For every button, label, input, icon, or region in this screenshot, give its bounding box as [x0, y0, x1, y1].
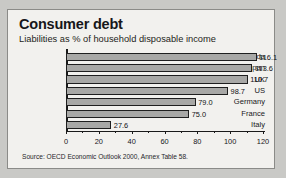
bar-row: 75.0 — [66, 110, 263, 118]
bar — [66, 53, 257, 61]
bar-row: 79.0 — [66, 98, 263, 106]
bar-row: 27.6 — [66, 121, 263, 129]
bar-row: 98.7 — [66, 87, 263, 95]
axis-tick-label: 20 — [95, 137, 103, 146]
axis-minor-tick — [82, 131, 83, 133]
bar — [66, 64, 252, 72]
bar-value-label: 27.6 — [111, 121, 128, 130]
bar — [66, 75, 248, 83]
axis-tick — [263, 131, 264, 135]
axis-minor-tick — [148, 131, 149, 133]
axis-minor-tick — [181, 131, 182, 133]
chart-figure: Consumer debt Liabilities as % of househ… — [7, 9, 275, 169]
bar-row: 113.6 — [66, 64, 263, 72]
page-title: Consumer debt — [19, 16, 123, 32]
bar — [66, 110, 189, 118]
axis-tick — [99, 131, 100, 135]
bar-value-label: 79.0 — [196, 98, 213, 107]
bar-row: 116.1 — [66, 53, 263, 61]
chart-subtitle: Liabilities as % of household disposable… — [19, 34, 216, 44]
plot-area: CanadaJapanUKUSGermanyFranceItaly 116.11… — [19, 49, 265, 145]
bar-value-label: 98.7 — [228, 86, 245, 95]
axis-tick-label: 120 — [257, 137, 269, 146]
axis-minor-tick — [214, 131, 215, 133]
axis-tick-label: 80 — [193, 137, 201, 146]
axis-tick — [66, 131, 67, 135]
axis-tick — [165, 131, 166, 135]
axis-tick-label: 0 — [64, 137, 68, 146]
bar-value-label: 110.7 — [248, 75, 268, 84]
axis-tick-label: 100 — [224, 137, 236, 146]
bar-value-label: 113.6 — [252, 64, 272, 73]
x-axis-line — [66, 131, 265, 133]
source-note: Source: OECD Economic Outlook 2000, Anne… — [22, 153, 188, 160]
axis-tick — [197, 131, 198, 135]
bar-row: 110.7 — [66, 75, 263, 83]
axis-minor-tick — [247, 131, 248, 133]
bar — [66, 121, 111, 129]
bar-value-label: 75.0 — [189, 109, 206, 118]
bar — [66, 87, 228, 95]
axis-tick — [230, 131, 231, 135]
bar — [66, 98, 196, 106]
bar-value-label: 116.1 — [257, 52, 277, 61]
axis-minor-tick — [115, 131, 116, 133]
axis-tick-label: 60 — [160, 137, 168, 146]
axis-tick-label: 40 — [128, 137, 136, 146]
axis-tick — [132, 131, 133, 135]
